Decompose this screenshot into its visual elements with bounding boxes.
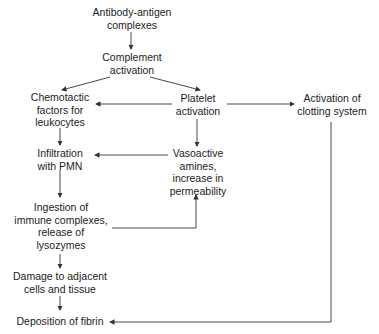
node-infiltration-pmn: Infiltration with PMN	[18, 147, 102, 172]
edge-complement-platelet	[150, 77, 200, 90]
node-damage-adjacent-cells: Damage to adjacent cells and tissue	[4, 270, 116, 295]
node-vasoactive-amines: Vasoactive amines, increase in permeabil…	[160, 147, 236, 197]
node-platelet-activation: Platelet activation	[166, 92, 230, 117]
edge-complement-chemotactic	[62, 77, 110, 90]
node-chemotactic-factors: Chemotactic factors for leukocytes	[8, 91, 112, 129]
node-complement-activation: Complement activation	[90, 51, 174, 76]
node-antibody-antigen: Antibody-antigen complexes	[80, 6, 184, 31]
node-ingestion-immune-complexes: Ingestion of immune complexes, release o…	[6, 201, 116, 251]
edge-ingestion-vasoactive	[112, 195, 196, 228]
node-clotting-system: Activation of clotting system	[290, 92, 374, 117]
node-deposition-fibrin: Deposition of fibrin	[6, 315, 114, 328]
